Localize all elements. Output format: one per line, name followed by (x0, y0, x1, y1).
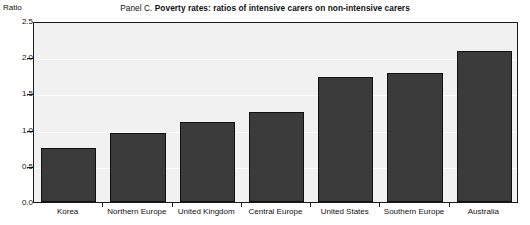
x-axis-tick (310, 203, 311, 207)
x-axis-label: Northern Europe (102, 207, 171, 216)
x-axis-tick (241, 203, 242, 207)
chart-container: Ratio Panel C. Poverty rates: ratios of … (0, 0, 530, 225)
chart-title: Panel C. Poverty rates: ratios of intens… (0, 3, 530, 13)
y-axis-label: 2.5 (0, 17, 33, 26)
x-axis-label: Southern Europe (379, 207, 448, 216)
plot-area (33, 22, 518, 203)
chart-title-text: Poverty rates: ratios of intensive carer… (155, 3, 410, 13)
y-axis-label: 1.0 (0, 126, 33, 135)
x-axis-label: United States (310, 207, 379, 216)
x-axis-label: United Kingdom (172, 207, 241, 216)
y-axis-label: 2.0 (0, 53, 33, 62)
x-axis-label: Central Europe (241, 207, 310, 216)
bar (180, 122, 235, 202)
y-axis-label: 0.0 (0, 198, 33, 207)
panel-label: Panel C. (120, 3, 152, 13)
x-axis-tick (449, 203, 450, 207)
x-axis-tick (102, 203, 103, 207)
bar (457, 51, 512, 202)
bar (249, 112, 304, 203)
y-axis-label: 1.5 (0, 89, 33, 98)
bar (41, 148, 96, 202)
bar (387, 73, 442, 202)
x-axis-tick (172, 203, 173, 207)
y-axis-label: 0.5 (0, 162, 33, 171)
x-axis-label: Korea (33, 207, 102, 216)
bars-layer (34, 23, 517, 202)
bar (318, 77, 373, 202)
x-axis-tick (379, 203, 380, 207)
bar (110, 133, 165, 202)
x-axis-label: Australia (449, 207, 518, 216)
